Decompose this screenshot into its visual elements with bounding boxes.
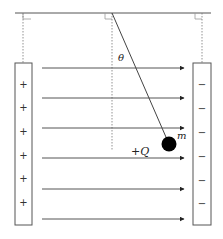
plus-sign: + — [19, 197, 27, 208]
minus-sign: − — [198, 175, 206, 186]
minus-sign: − — [198, 151, 206, 162]
right-angle-mark-right — [195, 13, 202, 19]
minus-sign: − — [198, 127, 206, 138]
pendulum-string — [112, 13, 169, 144]
charge-label: +Q — [131, 145, 149, 158]
plus-sign: + — [19, 150, 27, 161]
minus-sign: − — [198, 198, 206, 209]
mass-label: m — [177, 130, 186, 141]
angle-label: θ — [118, 52, 124, 63]
minus-sign: − — [198, 79, 206, 90]
pendulum-diagram: + + + + + + − − − − − − θ m +Q — [0, 0, 223, 239]
right-angle-mark-left — [23, 13, 31, 19]
charged-ball — [162, 137, 177, 152]
right-angle-mark-center — [105, 13, 112, 19]
minus-sign: − — [198, 103, 206, 114]
plus-sign: + — [19, 102, 27, 113]
plus-sign: + — [19, 126, 27, 137]
plus-sign: + — [19, 79, 27, 90]
plus-sign: + — [19, 173, 27, 184]
